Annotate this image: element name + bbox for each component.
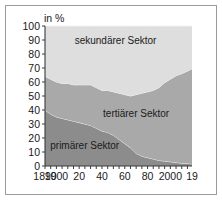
x-tick-label: 2000 — [159, 170, 183, 182]
figure-container: 0102030405060708090100189019002040608020… — [0, 0, 222, 200]
x-tick-label: 20 — [73, 170, 85, 182]
y-tick-label: 30 — [28, 118, 40, 130]
x-tick-label: 19 — [186, 170, 198, 182]
y-tick-label: 70 — [28, 62, 40, 74]
y-tick-label: 60 — [28, 76, 40, 88]
y-tick-label: 20 — [28, 132, 40, 144]
y-tick-label: 50 — [28, 90, 40, 102]
y-tick-label: 40 — [28, 104, 40, 116]
band-label-tertiärer: tertiärer Sektor — [103, 108, 170, 119]
x-tick-label: 1900 — [45, 170, 69, 182]
y-tick-label: 90 — [28, 34, 40, 46]
band-label-primärer: primärer Sektor — [50, 140, 120, 151]
x-tick-label: 40 — [96, 170, 108, 182]
x-tick-label: 60 — [119, 170, 131, 182]
y-tick-label: 100 — [22, 20, 40, 32]
stacked-area-chart: 0102030405060708090100189019002040608020… — [0, 0, 222, 200]
y-axis-unit-label: in % — [44, 12, 64, 24]
band-label-sekundärer: sekundärer Sektor — [75, 35, 157, 46]
y-tick-label: 10 — [28, 146, 40, 158]
y-tick-label: 80 — [28, 48, 40, 60]
x-tick-label: 80 — [142, 170, 154, 182]
